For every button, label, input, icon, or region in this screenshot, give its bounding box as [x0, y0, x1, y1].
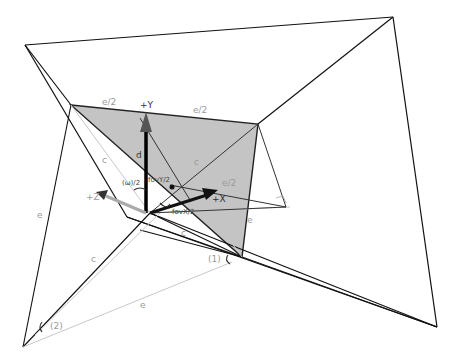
label-d: d: [136, 150, 142, 160]
label-plus-z: +Z: [86, 192, 100, 202]
omega-arc: [134, 188, 146, 190]
label-c-left-lower: c: [91, 254, 96, 264]
label-plus-y: +Y: [140, 100, 154, 110]
label-omega-half: (ω)/2: [122, 179, 140, 187]
label-e-half-left: e/2: [102, 97, 116, 107]
label-c-left-upper: c: [102, 155, 107, 165]
label-plus-x: +X: [212, 194, 226, 204]
label-fovy-half: fovY/2: [148, 176, 170, 184]
label-e-right: e: [247, 215, 253, 225]
label-angle-2: (2): [50, 321, 63, 331]
z-axis-arrow: [96, 190, 146, 213]
label-c-right-upper: c: [194, 157, 199, 167]
point-marker: [170, 185, 175, 190]
label-e-half-small: e/2: [222, 178, 236, 188]
label-c-mid: c: [181, 228, 186, 238]
label-e-bottom: e: [140, 300, 146, 310]
label-e-left: e: [37, 210, 43, 220]
geometry-diagram: e/2 e/2 +Y d c c (ω)/2 fovY/2 fovX/2 +X …: [0, 0, 455, 362]
label-fovx-half: fovX/2: [172, 208, 195, 216]
label-angle-1: (1): [208, 254, 221, 264]
label-e-half-right: e/2: [193, 105, 207, 115]
